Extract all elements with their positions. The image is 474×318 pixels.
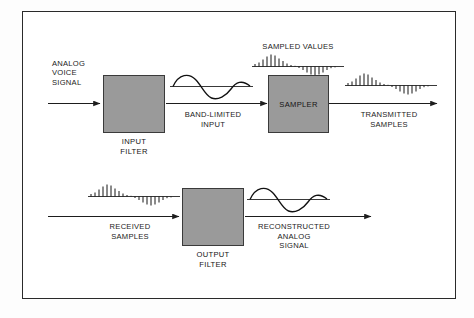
reconstructed-analog-signal-label: RECONSTRUCTED ANALOG SIGNAL	[239, 222, 349, 251]
transmitted-samples-label: TRANSMITTED SAMPLES	[341, 110, 437, 129]
sampled-values-label: SAMPLED VALUES	[248, 42, 348, 51]
sampler-label: SAMPLER	[268, 100, 329, 109]
input-filter-block[interactable]	[103, 75, 165, 133]
analog-voice-signal-label: ANALOG VOICE SIGNAL	[52, 59, 108, 87]
diagram-canvas: ANALOG VOICE SIGNAL INPUT FILTER BAND-LI…	[0, 0, 474, 318]
output-filter-label: OUTPUT FILTER	[173, 250, 253, 269]
band-limited-input-label: BAND-LIMITED INPUT	[165, 110, 261, 129]
output-filter-block[interactable]	[182, 188, 244, 246]
input-filter-label: INPUT FILTER	[94, 137, 174, 156]
received-samples-label: RECEIVED SAMPLES	[86, 222, 174, 241]
